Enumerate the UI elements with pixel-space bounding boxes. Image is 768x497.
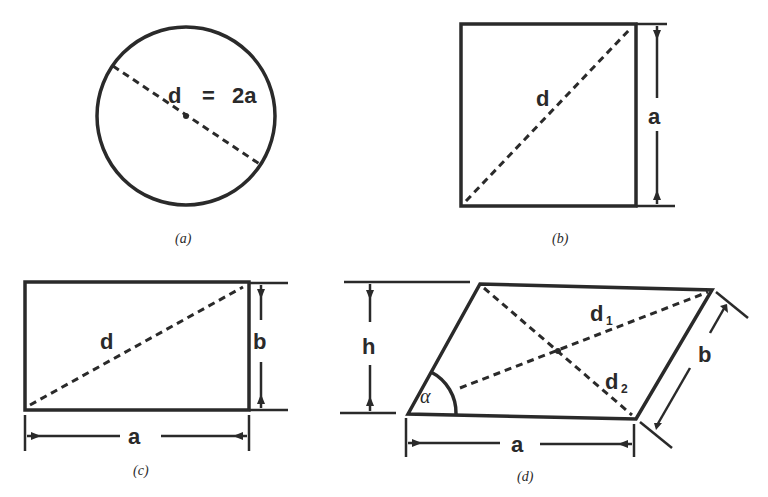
diagonal-line	[466, 29, 630, 201]
caption-d: (d)	[517, 469, 534, 485]
caption-a: (a)	[175, 231, 192, 247]
diagonal-d1	[460, 292, 708, 388]
figure-b-square: d a (b)	[461, 24, 675, 247]
label-d2: d	[605, 369, 618, 394]
label-2a: 2a	[232, 83, 257, 108]
diagonal-line	[30, 287, 243, 405]
label-a: a	[648, 104, 661, 129]
label-b: b	[253, 329, 266, 354]
arrow-down-icon	[653, 190, 661, 200]
arrow-left-icon	[31, 432, 41, 440]
arrow-up-icon	[653, 30, 661, 40]
figure-c-rectangle: d b a (c)	[25, 282, 288, 479]
geometry-figures-diagram: d = 2a (a) d a (b) d b	[0, 0, 768, 497]
label-d2-subscript: 2	[621, 382, 628, 396]
intersection-point	[555, 348, 561, 354]
label-b: b	[698, 342, 711, 367]
arrow-right-icon	[233, 432, 243, 440]
figure-a-circle: d = 2a (a)	[97, 27, 275, 247]
caption-c: (c)	[133, 463, 149, 479]
label-a: a	[128, 424, 141, 449]
angle-arc	[431, 372, 456, 414]
label-d: d	[536, 86, 549, 111]
label-d1: d	[590, 301, 603, 326]
arrow-down-icon	[366, 396, 374, 406]
label-a: a	[511, 432, 524, 457]
label-h: h	[362, 334, 375, 359]
figure-d-parallelogram: α h a b d 1 d 2 (d)	[340, 282, 748, 485]
label-alpha: α	[420, 385, 431, 407]
label-d1-subscript: 1	[606, 314, 613, 328]
arrow-left-icon	[412, 439, 422, 447]
label-d: d	[100, 329, 113, 354]
center-point	[183, 113, 189, 119]
arrow-up-icon	[366, 290, 374, 300]
arrow-right-icon	[618, 440, 628, 448]
dimension-line-upper	[710, 305, 726, 333]
arrow-lower-icon	[654, 423, 662, 430]
label-d: d	[168, 83, 181, 108]
label-equals: =	[202, 83, 215, 108]
arrow-up-icon	[257, 289, 265, 299]
arrow-down-icon	[257, 394, 265, 404]
caption-b: (b)	[552, 231, 569, 247]
